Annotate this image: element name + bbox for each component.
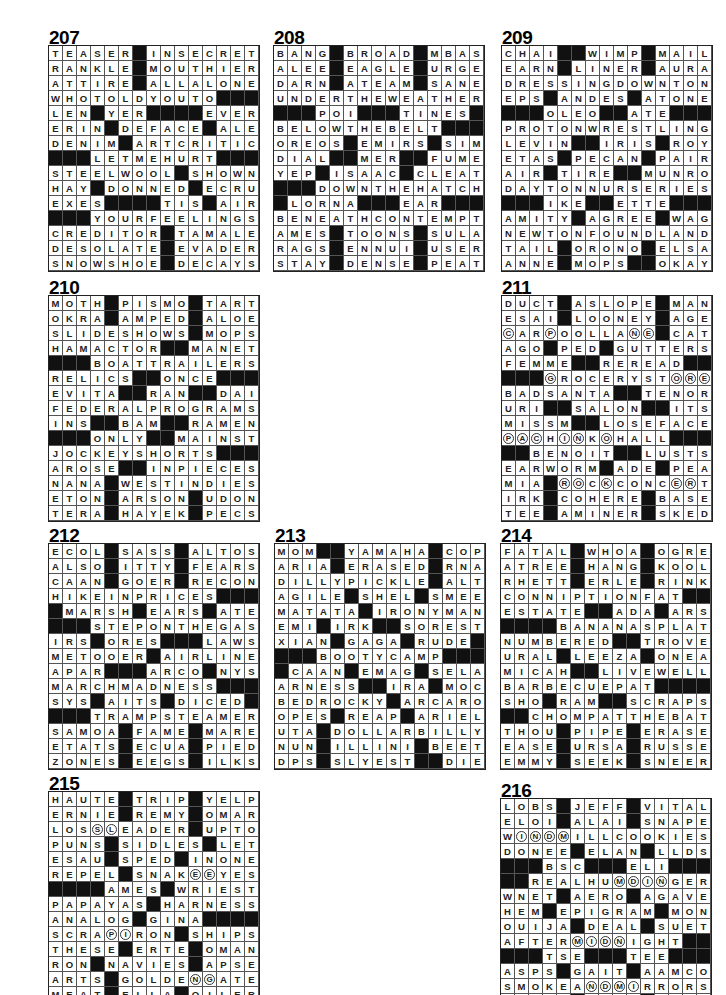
letter-cell: N bbox=[614, 241, 628, 256]
letter-cell: L bbox=[457, 724, 471, 739]
letter-cell: S bbox=[501, 694, 515, 709]
black-square bbox=[373, 679, 387, 694]
letter-cell: W bbox=[119, 166, 133, 181]
letter-cell: N bbox=[49, 476, 63, 491]
letter-cell: A bbox=[317, 664, 331, 679]
letter-cell: R bbox=[189, 897, 203, 912]
letter-cell: E bbox=[119, 106, 133, 121]
crossword-grid: TEASERINSECRETRANKLEMOUTHIERATTIREALLALO… bbox=[48, 45, 260, 272]
black-square bbox=[656, 136, 670, 151]
letter-cell: R bbox=[245, 196, 259, 211]
letter-cell: O bbox=[386, 211, 400, 226]
letter-cell: T bbox=[698, 326, 712, 341]
letter-cell: N bbox=[105, 957, 119, 972]
puzzle-number: 208 bbox=[274, 30, 485, 45]
circled-letter-cell: E bbox=[670, 476, 684, 491]
letter-cell: E bbox=[345, 559, 359, 574]
letter-cell: N bbox=[77, 106, 91, 121]
letter-cell: E bbox=[400, 61, 414, 76]
black-square bbox=[414, 76, 428, 91]
letter-cell: I bbox=[684, 151, 698, 166]
letter-cell: E bbox=[698, 491, 712, 506]
letter-cell: S bbox=[175, 957, 189, 972]
letter-cell: S bbox=[147, 476, 161, 491]
letter-cell: E bbox=[372, 91, 386, 106]
black-square bbox=[599, 949, 613, 964]
letter-cell: O bbox=[302, 196, 316, 211]
letter-cell: E bbox=[400, 196, 414, 211]
letter-cell: G bbox=[119, 972, 133, 987]
letter-cell: C bbox=[217, 181, 231, 196]
black-square bbox=[147, 649, 161, 664]
letter-cell: A bbox=[302, 256, 316, 271]
letter-cell: E bbox=[443, 739, 457, 754]
letter-cell: G bbox=[119, 574, 133, 589]
letter-cell: O bbox=[372, 226, 386, 241]
letter-cell: E bbox=[147, 852, 161, 867]
letter-cell: A bbox=[614, 461, 628, 476]
letter-cell: T bbox=[501, 724, 515, 739]
letter-cell: P bbox=[600, 256, 614, 271]
black-square bbox=[557, 739, 571, 754]
letter-cell: Y bbox=[373, 694, 387, 709]
black-square bbox=[698, 356, 712, 371]
letter-cell: I bbox=[669, 574, 683, 589]
black-square bbox=[161, 416, 175, 431]
letter-cell: O bbox=[530, 121, 544, 136]
letter-cell: C bbox=[49, 226, 63, 241]
letter-cell: V bbox=[641, 799, 655, 814]
black-square bbox=[557, 724, 571, 739]
letter-cell: S bbox=[77, 241, 91, 256]
letter-cell: I bbox=[231, 196, 245, 211]
letter-cell: E bbox=[614, 61, 628, 76]
letter-cell: R bbox=[345, 709, 359, 724]
letter-cell: S bbox=[175, 326, 189, 341]
letter-cell: E bbox=[119, 619, 133, 634]
black-square bbox=[414, 151, 428, 166]
letter-cell: E bbox=[217, 694, 231, 709]
black-square bbox=[189, 739, 203, 754]
letter-cell: B bbox=[530, 446, 544, 461]
letter-cell: E bbox=[189, 589, 203, 604]
letter-cell: L bbox=[600, 326, 614, 341]
letter-cell: E bbox=[543, 874, 557, 889]
letter-cell: M bbox=[515, 754, 529, 769]
letter-cell: E bbox=[642, 356, 656, 371]
letter-cell: N bbox=[656, 76, 670, 91]
letter-cell: E bbox=[557, 634, 571, 649]
letter-cell: E bbox=[400, 181, 414, 196]
letter-cell: O bbox=[613, 889, 627, 904]
letter-cell: O bbox=[77, 91, 91, 106]
letter-cell: D bbox=[683, 844, 697, 859]
letter-cell: I bbox=[516, 416, 530, 431]
letter-cell: A bbox=[119, 356, 133, 371]
letter-cell: A bbox=[571, 979, 585, 994]
letter-cell: E bbox=[501, 739, 515, 754]
letter-cell: N bbox=[684, 226, 698, 241]
black-square bbox=[133, 461, 147, 476]
letter-cell: E bbox=[529, 889, 543, 904]
letter-cell: G bbox=[372, 61, 386, 76]
letter-cell: H bbox=[614, 431, 628, 446]
letter-cell: A bbox=[515, 544, 529, 559]
letter-cell: E bbox=[175, 679, 189, 694]
black-square bbox=[189, 506, 203, 521]
letter-cell: S bbox=[543, 964, 557, 979]
letter-cell: R bbox=[387, 604, 401, 619]
letter-cell: A bbox=[189, 544, 203, 559]
letter-cell: G bbox=[600, 211, 614, 226]
black-square bbox=[63, 882, 77, 897]
letter-cell: F bbox=[428, 151, 442, 166]
letter-cell: S bbox=[642, 371, 656, 386]
letter-cell: E bbox=[331, 589, 345, 604]
letter-cell: B bbox=[274, 121, 288, 136]
letter-cell: T bbox=[613, 964, 627, 979]
letter-cell: H bbox=[147, 446, 161, 461]
letter-cell: R bbox=[501, 574, 515, 589]
letter-cell: B bbox=[386, 121, 400, 136]
letter-cell: S bbox=[698, 446, 712, 461]
letter-cell: A bbox=[641, 604, 655, 619]
letter-cell: A bbox=[189, 912, 203, 927]
black-square bbox=[119, 867, 133, 882]
letter-cell: A bbox=[501, 934, 515, 949]
